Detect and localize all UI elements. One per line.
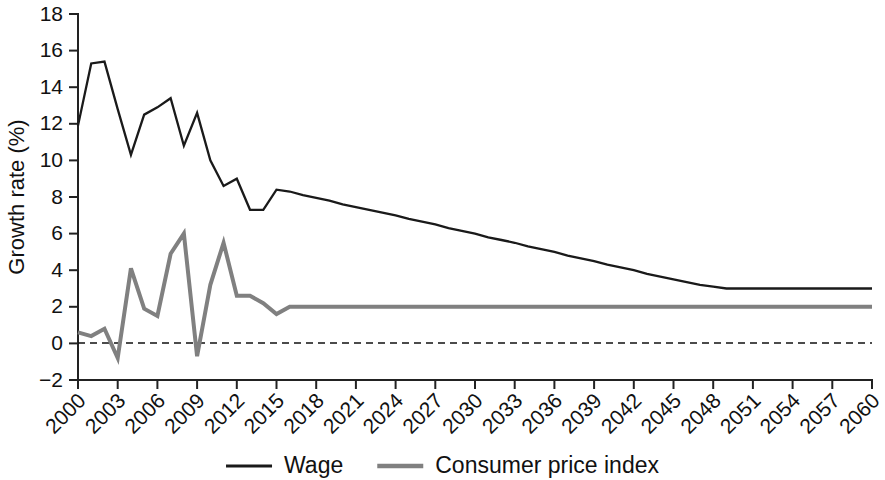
x-tick-label: 2015 [239, 389, 288, 438]
series-line-consumer-price-index [78, 234, 872, 358]
y-tick-label: 6 [51, 221, 63, 244]
x-tick-label: 2006 [120, 389, 169, 438]
chart-legend: WageConsumer price index [226, 452, 659, 478]
x-tick-label: 2033 [477, 389, 526, 438]
y-tick-label: −2 [39, 368, 63, 391]
x-tick-label: 2027 [398, 389, 447, 438]
y-tick-label: 12 [40, 111, 63, 134]
y-axis-tick-labels: −2024681012141618 [39, 2, 63, 391]
x-tick-label: 2057 [795, 389, 844, 438]
x-tick-label: 2012 [199, 389, 248, 438]
x-tick-label: 2021 [318, 389, 367, 438]
y-tick-label: 18 [40, 2, 63, 25]
legend-label-wage: Wage [284, 452, 343, 478]
x-axis: 2000200320062009201220152018202120242027… [41, 380, 884, 438]
y-axis-ticks [69, 14, 78, 380]
y-tick-label: 10 [40, 148, 63, 171]
chart-figure: −2024681012141618 2000200320062009201220… [0, 0, 885, 480]
x-tick-label: 2000 [41, 389, 90, 438]
x-tick-label: 2003 [80, 389, 129, 438]
y-tick-label: 2 [51, 294, 63, 317]
y-tick-label: 14 [40, 75, 64, 98]
y-tick-label: 8 [51, 185, 63, 208]
y-axis: −2024681012141618 [39, 2, 78, 391]
x-axis-ticks [78, 380, 872, 389]
legend-label-consumer-price-index: Consumer price index [435, 452, 659, 478]
x-tick-label: 2024 [358, 388, 408, 438]
growth-rate-line-chart: −2024681012141618 2000200320062009201220… [0, 0, 885, 480]
x-tick-label: 2042 [596, 389, 645, 438]
y-tick-label: 4 [51, 258, 63, 281]
series-lines [78, 62, 872, 358]
x-tick-label: 2060 [835, 389, 884, 438]
x-tick-label: 2009 [160, 389, 209, 438]
x-axis-tick-labels: 2000200320062009201220152018202120242027… [41, 388, 884, 438]
y-axis-title: Growth rate (%) [4, 119, 29, 274]
x-tick-label: 2018 [279, 389, 328, 438]
x-tick-label: 2030 [438, 389, 487, 438]
x-tick-label: 2051 [715, 389, 764, 438]
y-tick-label: 0 [51, 331, 63, 354]
x-tick-label: 2048 [676, 389, 725, 438]
x-tick-label: 2045 [636, 389, 685, 438]
x-tick-label: 2039 [557, 389, 606, 438]
x-tick-label: 2036 [517, 389, 566, 438]
x-tick-label: 2054 [755, 388, 805, 438]
series-line-wage [78, 62, 872, 289]
y-tick-label: 16 [40, 38, 63, 61]
